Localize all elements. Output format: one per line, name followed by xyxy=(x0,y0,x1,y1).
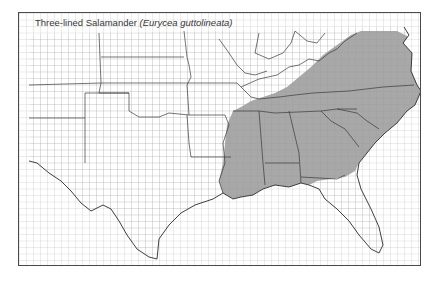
map-frame: Three-lined Salamander (Eurycea guttolin… xyxy=(18,12,421,266)
county-map xyxy=(19,13,420,265)
